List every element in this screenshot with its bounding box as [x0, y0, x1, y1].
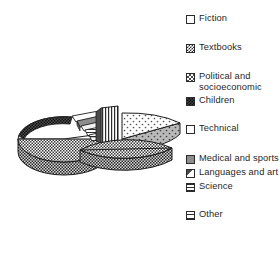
pie-slice-political-and-socioeconomic [96, 106, 118, 143]
legend-item-fiction[interactable]: Fiction [186, 13, 280, 24]
legend-item-label: Languages and art [199, 167, 278, 178]
dense-dark-square-icon [186, 97, 195, 106]
legend-item-languages-and-art[interactable]: Languages and art [186, 167, 280, 178]
pie-chart-svg [0, 0, 190, 264]
legend-item-medical-and-sports[interactable]: Medical and sports [186, 153, 280, 164]
legend-item-textbooks[interactable]: Textbooks [186, 42, 280, 53]
legend-item-children[interactable]: Children [186, 95, 280, 106]
legend-item-label: Fiction [199, 13, 227, 24]
corner-mark-square-icon [186, 169, 195, 178]
legend-item-label: Medical and sports [199, 153, 279, 164]
legend-item-label: Other [199, 209, 223, 220]
legend-item-label: Technical [199, 123, 239, 134]
legend-item-label: Children [199, 95, 234, 106]
legend-item-label: Science [199, 181, 233, 192]
pie-plot-area [0, 0, 190, 264]
light-checker-square-icon [186, 73, 195, 82]
legend-item-other[interactable]: Other [186, 209, 280, 220]
legend-item-label: Textbooks [199, 42, 242, 53]
chart-legend: Fiction Textbooks Political and socioeco… [186, 13, 280, 221]
empty-square-icon [186, 15, 195, 24]
empty-square-icon [186, 125, 195, 134]
legend-item-label: Political and socioeconomic [199, 71, 280, 92]
legend-item-technical[interactable]: Technical [186, 123, 280, 134]
legend-item-science[interactable]: Science [186, 181, 280, 192]
pie-chart-figure: Fiction Textbooks Political and socioeco… [0, 0, 280, 264]
horizontal-bars-square-icon [186, 211, 195, 220]
gray-filled-square-icon [186, 155, 195, 164]
checker-square-icon [186, 44, 195, 53]
pie-slice-foreground [80, 140, 172, 171]
legend-item-political-and-socioeconomic[interactable]: Political and socioeconomic [186, 71, 280, 92]
horizontal-lines-square-icon [186, 183, 195, 192]
